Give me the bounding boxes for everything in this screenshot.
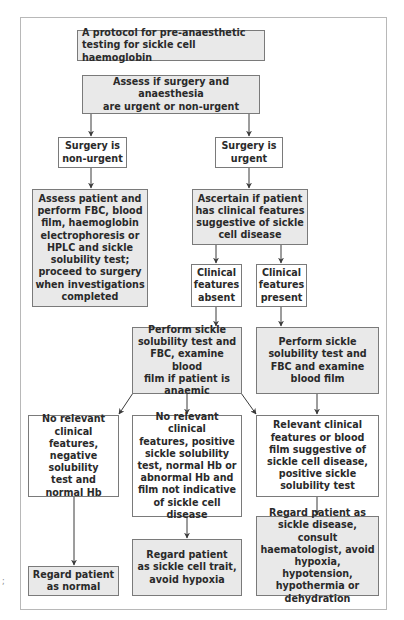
- node-positive-not-indicative: No relevant clinical features, positive …: [132, 415, 242, 517]
- node-features-absent: Clinical features absent: [191, 264, 242, 307]
- node-ascertain-features: Ascertain if patient has clinical featur…: [192, 189, 308, 245]
- node-regard-trait: Regard patient as sickle cell trait, avo…: [132, 539, 242, 596]
- node-regard-normal: Regard patient as normal: [28, 566, 119, 596]
- node-perform-blood-film: Perform sickle solubility test and FBC a…: [256, 327, 379, 394]
- node-negative-normal-hb: No relevant clinical features, negative …: [28, 415, 119, 497]
- node-regard-disease: Regard patient as sickle disease, consul…: [256, 516, 379, 596]
- node-assess-urgency: Assess if surgery and anaesthesia are ur…: [82, 75, 260, 114]
- node-perform-if-anaemic: Perform sickle solubility test and FBC, …: [132, 327, 242, 394]
- stray-mark: ;: [2, 577, 5, 586]
- node-features-present: Clinical features present: [256, 264, 307, 307]
- node-relevant-positive: Relevant clinical features or blood film…: [256, 415, 379, 497]
- diagram-title: A protocol for pre-anaesthetic testing f…: [77, 30, 265, 61]
- node-surgery-non-urgent: Surgery is non-urgent: [58, 137, 127, 168]
- node-surgery-urgent: Surgery is urgent: [215, 137, 283, 168]
- node-assess-patient: Assess patient and perform FBC, blood fi…: [32, 189, 148, 307]
